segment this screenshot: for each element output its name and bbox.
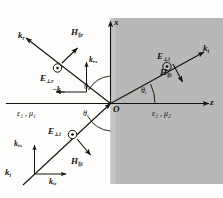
medium-2-parameters-label: ε₂ , μ₂ [152,110,171,118]
e-perp-t-label: E⊥t [157,52,170,62]
figure-vector-graphics [0,0,223,198]
h-parallel-t-label: H∥t [160,68,172,78]
e-perp-r-label: E⊥r [40,74,54,84]
page-bleed-artifact [3,0,5,7]
z-axis-label: z [210,98,214,107]
h-parallel-r-label: H∥r [71,28,83,38]
e-perp-r-dot [56,67,59,70]
theta-r-arc [89,76,111,90]
x-axis-label: x [114,18,119,27]
k-ix-label: kix [14,140,22,149]
origin-label: O [113,105,120,114]
h-parallel-i-arrow [77,139,91,155]
physics-figure-oblique-incidence: x z O ε₁ , μ₁ ε₂ , μ₂ θr θi θt kr H∥r E⊥… [0,0,223,198]
theta-t-label: θt [141,87,146,96]
theta-r-label: θr [84,83,90,92]
theta-i-arc [88,117,111,132]
reflected-ray [26,38,111,104]
k-rx-label: krx [89,56,97,65]
k-iz-label: kiz [49,178,56,187]
k-i-label: ki [5,168,11,178]
h-parallel-i-label: H∥i [71,157,83,167]
minus-k-rz-label: −krz [52,86,65,95]
incident-ray [23,104,111,186]
theta-i-label: θi [83,110,88,119]
e-perp-i-label: E⊥i [48,127,61,137]
medium-1-parameters-label: ε₁ , μ₁ [17,110,36,118]
h-parallel-r-arrow [62,48,78,63]
k-r-label: kr [18,31,25,41]
e-perp-i-dot [71,133,74,136]
k-t-label: kt [203,44,209,54]
